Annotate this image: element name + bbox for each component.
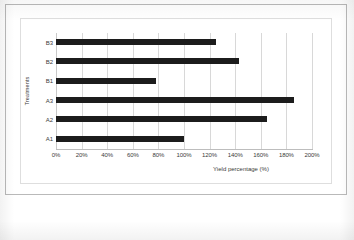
x-tick-label: 180% <box>279 152 294 158</box>
y-axis-tick-labels: B3B2B1A3A2A1 <box>35 33 55 149</box>
x-axis-line <box>56 149 313 150</box>
y-axis-title-label: Treatments <box>25 77 31 106</box>
bar-B2 <box>56 58 239 64</box>
x-tick-label: 100% <box>177 152 192 158</box>
chart-plot-card: Treatments B3B2B1A3A2A1 0%20%40%60%80%10… <box>20 18 332 184</box>
x-tick-label: 200% <box>305 152 320 158</box>
bar-row <box>56 91 312 110</box>
plot-area <box>56 33 312 149</box>
x-axis-tick-labels: 0%20%40%60%80%100%120%140%160%180%200% <box>56 152 312 163</box>
x-tick-label: 160% <box>253 152 268 158</box>
figure-frame: Treatments B3B2B1A3A2A1 0%20%40%60%80%10… <box>5 4 347 195</box>
x-tick-label: 20% <box>76 152 88 158</box>
bar-A3 <box>56 97 294 103</box>
x-tick-label: 120% <box>202 152 217 158</box>
bar-row <box>56 52 312 71</box>
bar-series <box>56 33 312 149</box>
x-tick-label: 140% <box>228 152 243 158</box>
bar-row <box>56 110 312 129</box>
x-axis-title: Yield percentage (%) <box>171 166 311 172</box>
bar-row <box>56 72 312 91</box>
bar-A1 <box>56 136 184 142</box>
x-tick-label: 60% <box>127 152 139 158</box>
bar-row <box>56 33 312 52</box>
x-tick-label: 80% <box>153 152 165 158</box>
y-tick-label-B2: B2 <box>46 59 53 65</box>
x-axis-title-label: Yield percentage (%) <box>213 166 269 172</box>
bar-B3 <box>56 39 216 45</box>
x-tick-label: 40% <box>101 152 113 158</box>
y-tick-label-B1: B1 <box>46 78 53 84</box>
y-tick-label-B3: B3 <box>46 40 53 46</box>
bar-B1 <box>56 78 156 84</box>
bar-A2 <box>56 116 267 122</box>
gridline-200 <box>312 33 313 149</box>
y-tick-label-A3: A3 <box>46 98 53 104</box>
x-tick-label: 0% <box>52 152 60 158</box>
y-tick-label-A2: A2 <box>46 117 53 123</box>
bar-row <box>56 130 312 149</box>
y-axis-title: Treatments <box>22 49 33 133</box>
y-tick-label-A1: A1 <box>46 136 53 142</box>
